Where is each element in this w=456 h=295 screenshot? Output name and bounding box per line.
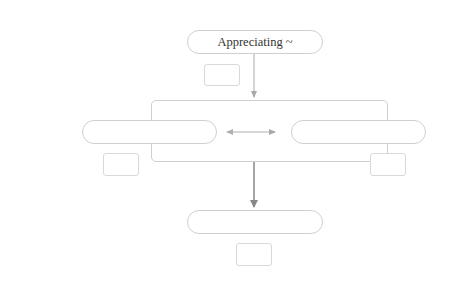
- node-top-label: Appreciating ~: [217, 35, 292, 50]
- tag-left[interactable]: [103, 153, 139, 176]
- node-left[interactable]: [82, 120, 217, 144]
- tag-top[interactable]: [204, 64, 240, 86]
- tag-bottom[interactable]: [236, 243, 272, 266]
- diagram-canvas: Appreciating ~: [0, 0, 456, 295]
- node-bottom[interactable]: [187, 210, 323, 234]
- tag-right[interactable]: [370, 153, 406, 176]
- node-right[interactable]: [291, 120, 426, 144]
- node-top[interactable]: Appreciating ~: [187, 30, 323, 54]
